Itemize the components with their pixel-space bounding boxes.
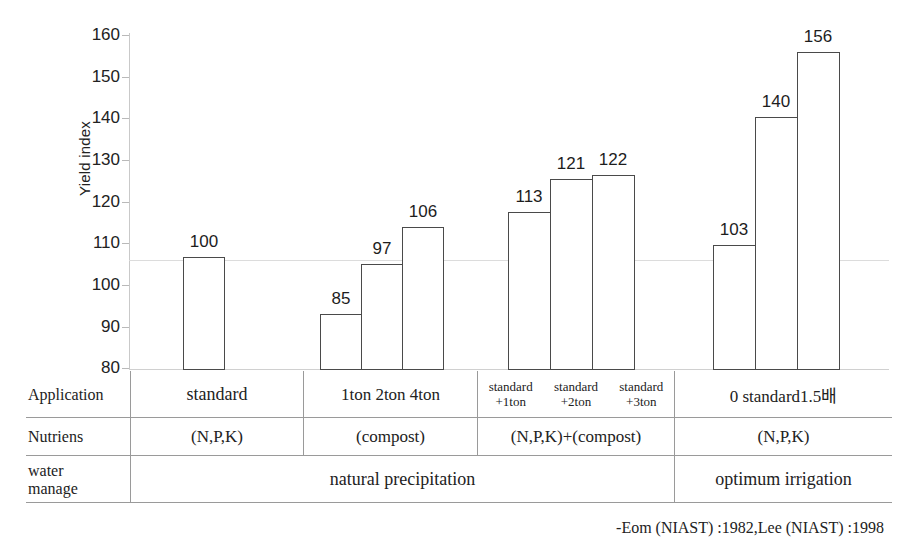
label-line2: +3ton xyxy=(619,395,663,410)
cell-nutriens-group1: (N,P,K) xyxy=(131,418,303,456)
table-row-nutriens: Nutriens (N,P,K) (compost) (N,P,K)+(comp… xyxy=(26,418,892,456)
bar-value-100: 100 xyxy=(190,232,218,252)
bar-value-97: 97 xyxy=(373,239,392,259)
bar-0-103 xyxy=(713,245,756,370)
row-header-line1: water xyxy=(28,462,78,480)
label-line1: standard xyxy=(554,380,598,395)
cell-nutriens-group2: (compost) xyxy=(304,418,477,456)
subcell-standard-plus-1ton: standard +1ton xyxy=(478,371,543,418)
bar-standard-plus-3ton-122 xyxy=(592,175,635,370)
label-line1: standard xyxy=(489,380,533,395)
subcell-standard-plus-3ton: standard +3ton xyxy=(609,371,674,418)
table-rule xyxy=(26,502,892,503)
row-header-water-manage: water manage xyxy=(26,456,130,503)
bar-2ton-97 xyxy=(361,264,403,370)
bar-4ton-106 xyxy=(402,227,444,370)
source-credit: -Eom (NIAST) :1982,Lee (NIAST) :1998 xyxy=(0,519,884,537)
cell-water-optimum-irrigation: optimum irrigation xyxy=(675,456,892,503)
label-line2: +2ton xyxy=(554,395,598,410)
bar-value-140: 140 xyxy=(762,92,790,112)
bar-value-106: 106 xyxy=(409,202,437,222)
bar-standard-plus-1ton-113 xyxy=(508,212,551,370)
cell-application-group1: standard xyxy=(131,371,303,418)
bar-value-113: 113 xyxy=(515,187,542,207)
cell-application-group3: standard +1ton standard +2ton standard +… xyxy=(478,371,674,418)
chart-figure: Yield index 160 150 140 130 120 110 100 … xyxy=(0,0,906,547)
subcell-standard-plus-2ton: standard +2ton xyxy=(543,371,608,418)
bar-1-5bae-156 xyxy=(797,52,840,370)
bar-standard-100 xyxy=(183,257,225,370)
bar-standard-140 xyxy=(755,117,798,370)
cell-nutriens-group4: (N,P,K) xyxy=(675,418,892,456)
cell-application-group4: 0 standard1.5배 xyxy=(675,371,892,418)
row-header-nutriens: Nutriens xyxy=(26,418,130,456)
bar-value-121: 121 xyxy=(557,154,585,174)
cell-nutriens-group3: (N,P,K)+(compost) xyxy=(478,418,674,456)
table-row-water-manage: water manage natural precipitation optim… xyxy=(26,456,892,503)
table-row-application: Application standard 1ton 2ton 4ton stan… xyxy=(26,371,892,418)
bar-1ton-85 xyxy=(320,314,362,370)
bar-value-103: 103 xyxy=(720,220,748,240)
bar-value-122: 122 xyxy=(599,150,627,170)
bar-standard-plus-2ton-121 xyxy=(550,179,593,370)
bar-value-85: 85 xyxy=(332,289,351,309)
cell-water-natural-precipitation: natural precipitation xyxy=(131,456,674,503)
cell-application-group2: 1ton 2ton 4ton xyxy=(304,371,477,418)
label-line2: +1ton xyxy=(489,395,533,410)
label-line1: standard xyxy=(619,380,663,395)
condition-table: Application standard 1ton 2ton 4ton stan… xyxy=(26,371,892,503)
bar-value-156: 156 xyxy=(804,27,832,47)
bars-area: 100 85 97 106 113 121 122 103 140 156 xyxy=(0,0,906,380)
row-header-application: Application xyxy=(26,371,130,418)
row-header-line2: manage xyxy=(28,480,78,498)
